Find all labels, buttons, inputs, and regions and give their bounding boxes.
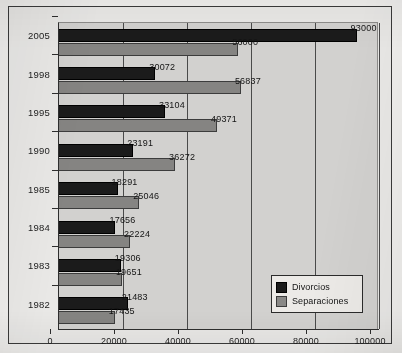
y-tick-label: 1984	[9, 222, 50, 233]
gridline	[379, 23, 380, 329]
bar-divorcios-1995	[59, 105, 165, 118]
y-tick	[52, 208, 58, 209]
bar-label-separaciones-1984: 22224	[124, 229, 150, 239]
bar-separaciones-1982	[59, 311, 115, 324]
chart-legend: Divorcios Separaciones	[271, 275, 363, 313]
x-tick	[50, 329, 51, 334]
bar-label-separaciones-1982: 17435	[109, 306, 135, 316]
x-tick	[114, 329, 115, 334]
bar-separaciones-1983	[59, 273, 122, 286]
y-tick	[52, 54, 58, 55]
x-tick-label: 60000	[229, 336, 255, 346]
y-tick-label: 1983	[9, 260, 50, 271]
bar-label-separaciones-1985: 25046	[133, 191, 159, 201]
x-tick-label: 0	[47, 336, 52, 346]
bar-divorcios-1985	[59, 182, 118, 195]
bar-divorcios-2005	[59, 29, 357, 42]
bar-separaciones-1984	[59, 235, 130, 248]
legend-label-separaciones: Separaciones	[292, 296, 348, 306]
y-tick	[52, 93, 58, 94]
x-tick-label: 80000	[293, 336, 319, 346]
x-tick	[306, 329, 307, 334]
y-tick-label: 1990	[9, 145, 50, 156]
bar-label-separaciones-1983: 19651	[116, 267, 142, 277]
bar-divorcios-1990	[59, 144, 133, 157]
bar-label-separaciones-1990: 36272	[169, 152, 195, 162]
y-tick	[52, 246, 58, 247]
bar-label-divorcios-1984: 17656	[109, 215, 135, 225]
bar-separaciones-2005	[59, 43, 238, 56]
y-tick-label: 1995	[9, 106, 50, 117]
legend-swatch-divorcios	[276, 282, 287, 293]
bar-label-divorcios-2005: 93000	[351, 23, 377, 33]
bar-label-divorcios-1983: 19306	[115, 253, 141, 263]
gridline	[187, 23, 188, 329]
bar-label-divorcios-1995: 33104	[159, 100, 185, 110]
legend-item-separaciones: Separaciones	[276, 294, 357, 308]
legend-item-divorcios: Divorcios	[276, 280, 357, 294]
bar-divorcios-1983	[59, 259, 121, 272]
bar-label-divorcios-1985: 18291	[112, 177, 138, 187]
y-tick-label: 1985	[9, 183, 50, 194]
chart-outer-frame: 020000400006000080000100000 200519981995…	[8, 6, 392, 344]
bar-label-separaciones-1995: 49371	[211, 114, 237, 124]
bar-divorcios-1998	[59, 67, 155, 80]
x-tick	[370, 329, 371, 334]
y-tick-label: 1982	[9, 298, 50, 309]
gridline	[251, 23, 252, 329]
chart-figure: 020000400006000080000100000 200519981995…	[0, 0, 402, 353]
y-tick-label: 1998	[9, 68, 50, 79]
bar-separaciones-1985	[59, 196, 139, 209]
y-tick	[52, 131, 58, 132]
bar-separaciones-1995	[59, 119, 217, 132]
legend-swatch-separaciones	[276, 296, 287, 307]
bar-label-separaciones-2005: 56000	[232, 37, 258, 47]
x-tick	[178, 329, 179, 334]
bar-separaciones-1990	[59, 158, 175, 171]
y-tick	[52, 16, 58, 17]
y-tick	[52, 285, 58, 286]
bar-label-divorcios-1998: 30072	[149, 62, 175, 72]
y-tick-label: 2005	[9, 30, 50, 41]
y-tick	[52, 170, 58, 171]
x-tick	[242, 329, 243, 334]
bar-divorcios-1984	[59, 221, 115, 234]
bar-label-separaciones-1998: 56837	[235, 76, 261, 86]
x-axis-line	[58, 329, 379, 330]
bar-separaciones-1998	[59, 81, 241, 94]
x-tick-label: 100000	[354, 336, 385, 346]
legend-label-divorcios: Divorcios	[292, 282, 330, 292]
x-tick-label: 40000	[165, 336, 191, 346]
bar-label-divorcios-1990: 23191	[127, 138, 153, 148]
x-tick-label: 20000	[101, 336, 127, 346]
bar-label-divorcios-1982: 21483	[122, 292, 148, 302]
